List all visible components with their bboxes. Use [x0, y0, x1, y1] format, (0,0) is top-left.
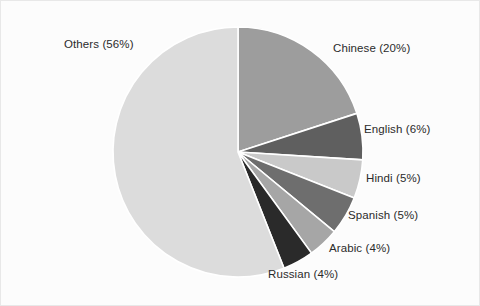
pie-label-others: Others (56%): [64, 39, 134, 51]
pie-label-russian: Russian (4%): [268, 269, 338, 281]
pie-chart-canvas: Others (56%)Chinese (20%)English (6%)Hin…: [0, 0, 480, 306]
pie-label-english: English (6%): [364, 124, 430, 136]
pie-label-arabic: Arabic (4%): [329, 243, 390, 255]
pie-slice-group: [113, 27, 363, 277]
pie-label-chinese: Chinese (20%): [333, 43, 410, 55]
pie-label-spanish: Spanish (5%): [348, 210, 418, 222]
pie-label-hindi: Hindi (5%): [366, 173, 421, 185]
